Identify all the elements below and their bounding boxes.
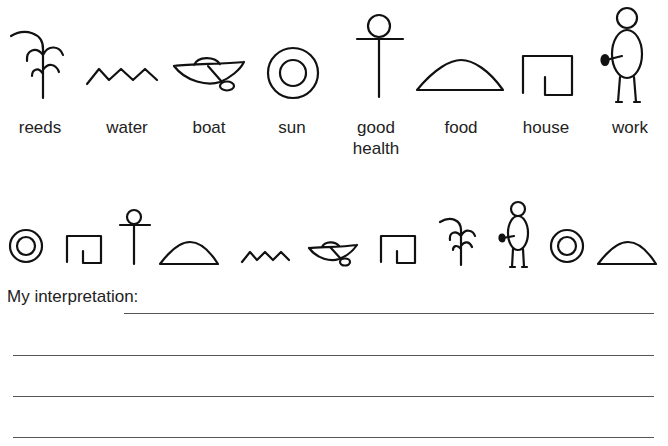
label-good-health-line2: health [353,139,399,158]
label-boat: boat [164,117,254,138]
answer-line-3[interactable] [13,396,654,397]
reeds-icon [8,30,68,102]
label-good-health-line1: good [357,118,395,137]
sun-icon [549,228,585,264]
answer-line-1[interactable] [124,313,654,314]
label-sun: sun [247,117,337,138]
house-icon [378,233,418,265]
work-icon [496,199,536,269]
answer-line-2[interactable] [13,355,654,356]
reeds-icon [438,218,478,268]
boat-icon [172,60,247,96]
label-work: work [585,117,668,138]
house-icon [64,233,104,265]
sun-icon [266,46,320,100]
label-good-health: good health [331,117,421,159]
food-icon [596,240,658,266]
interpretation-label: My interpretation: [7,287,138,307]
label-water: water [82,117,172,138]
work-icon [596,4,654,104]
label-food: food [416,117,506,138]
house-icon [520,53,576,97]
label-house: house [501,117,591,138]
food-icon [158,240,220,266]
food-icon [415,58,505,92]
answer-line-4[interactable] [13,437,654,438]
water-icon [85,64,160,86]
label-reeds: reeds [0,117,85,138]
good-health-icon [355,12,405,100]
water-icon [240,248,292,264]
good-health-icon [118,207,152,267]
boat-icon [307,243,359,271]
sun-icon [8,228,44,264]
